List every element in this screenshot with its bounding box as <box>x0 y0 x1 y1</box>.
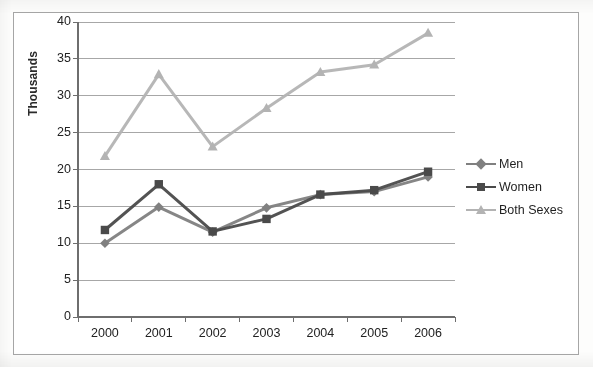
data-point-marker <box>154 69 164 78</box>
chart-figure: Thousands 0510152025303540 2000200120022… <box>0 0 593 367</box>
y-axis-tick-label: 0 <box>45 309 71 323</box>
y-axis-tick-label: 40 <box>45 14 71 28</box>
data-point-marker <box>101 226 109 234</box>
data-point-marker <box>262 215 270 223</box>
chart-legend: MenWomenBoth Sexes <box>466 152 578 221</box>
legend-label: Women <box>499 180 542 194</box>
legend-label: Men <box>499 157 523 171</box>
data-point-marker <box>262 203 272 213</box>
x-axis-tick-label: 2005 <box>347 326 401 340</box>
data-point-marker <box>370 186 378 194</box>
y-axis-tick-label: 30 <box>45 88 71 102</box>
y-axis-tick-label: 10 <box>45 235 71 249</box>
legend-item-both-sexes[interactable]: Both Sexes <box>466 198 578 221</box>
x-axis-tick-label: 2003 <box>240 326 294 340</box>
y-axis-tick-label: 25 <box>45 125 71 139</box>
x-axis-tick-label: 2006 <box>401 326 455 340</box>
x-axis-tick-label: 2000 <box>78 326 132 340</box>
x-axis-tick-label: 2002 <box>186 326 240 340</box>
legend-item-women[interactable]: Women <box>466 175 578 198</box>
legend-label: Both Sexes <box>499 203 563 217</box>
data-point-marker <box>423 28 433 37</box>
series-men <box>100 172 433 248</box>
legend-swatch-icon <box>466 180 496 194</box>
x-axis-tick-label: 2004 <box>293 326 347 340</box>
data-point-marker <box>316 190 324 198</box>
y-axis-tick-label: 35 <box>45 51 71 65</box>
series-both-sexes <box>100 28 433 160</box>
legend-swatch-icon <box>466 203 496 217</box>
y-axis-tick-label: 5 <box>45 272 71 286</box>
data-point-marker <box>155 180 163 188</box>
legend-marker-diamond-icon <box>475 158 486 169</box>
series-women <box>101 168 433 236</box>
legend-item-men[interactable]: Men <box>466 152 578 175</box>
data-point-marker <box>208 227 216 235</box>
legend-marker-triangle-icon <box>476 205 486 214</box>
x-axis-tick-label: 2001 <box>132 326 186 340</box>
y-axis-tick-label: 15 <box>45 198 71 212</box>
y-axis-tick-label: 20 <box>45 162 71 176</box>
legend-swatch-icon <box>466 157 496 171</box>
legend-marker-square-icon <box>477 183 485 191</box>
data-point-marker <box>424 168 432 176</box>
